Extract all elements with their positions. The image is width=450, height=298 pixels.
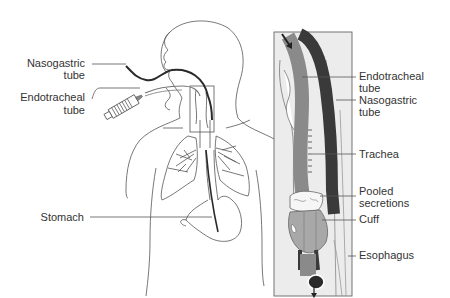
label-endotracheal-tube-line1: Endotracheal <box>20 91 85 103</box>
label-inset-esophagus: Esophagus <box>359 249 415 261</box>
label-nasogastric-tube-line1: Nasogastric <box>27 57 86 69</box>
label-inset-nasogastric-tube-line2: tube <box>359 106 380 118</box>
intubation-diagram: Nasogastric tube Endotracheal tube Stoma… <box>0 0 450 298</box>
endotracheal-tube-syringe <box>103 86 200 121</box>
label-endotracheal-tube-line2: tube <box>64 104 85 116</box>
label-stomach: Stomach <box>41 211 84 223</box>
label-inset-endotracheal-tube-line1: Endotracheal <box>359 70 424 82</box>
label-inset-endotracheal-tube-line1b: tube <box>359 82 380 94</box>
label-inset-trachea: Trachea <box>359 148 400 160</box>
inset-panel <box>274 32 352 298</box>
label-inset-pooled-secretions-line2: secretions <box>359 197 410 209</box>
label-inset-pooled-secretions-line1: Pooled <box>359 185 393 197</box>
label-inset-cuff: Cuff <box>359 213 380 225</box>
label-nasogastric-tube-line2: tube <box>64 69 85 81</box>
label-inset-nasogastric-tube-line1: Nasogastric <box>359 94 418 106</box>
